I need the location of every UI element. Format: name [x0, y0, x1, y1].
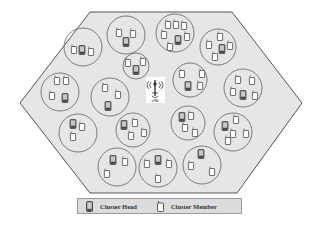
legend-cluster-member-label: Cluster Member — [171, 203, 217, 210]
cluster-head-icon — [62, 94, 68, 103]
cluster-head-icon — [185, 82, 191, 91]
cluster-head-icon — [175, 36, 181, 45]
cluster-head-icon — [155, 156, 161, 165]
enb-label: eNB — [152, 99, 160, 103]
legend-cluster-head-label: Cluster Head — [100, 203, 137, 210]
cluster-head-icon — [219, 45, 225, 54]
cluster-head-icon — [179, 113, 185, 122]
enb-base-station: eNB — [146, 77, 165, 103]
cluster-head-icon — [110, 156, 116, 165]
cluster-head-icon — [133, 66, 139, 75]
cluster-head-icon — [123, 38, 129, 47]
cluster-head-icon — [198, 150, 204, 159]
cluster-head-icon — [121, 121, 127, 130]
cluster-member-icon — [157, 201, 164, 212]
cluster-head-icon — [240, 91, 246, 100]
cluster-head-icon — [105, 102, 111, 111]
cluster-head-icon — [222, 122, 228, 131]
cell-diagram: eNB — [0, 0, 321, 226]
cluster-head-icon — [79, 46, 85, 55]
legend: Cluster Head Cluster Member — [77, 198, 242, 214]
cluster-head-icon — [86, 201, 93, 212]
legend-item-cluster-member: Cluster Member — [157, 201, 217, 212]
cluster-head-icon — [70, 120, 76, 129]
legend-item-cluster-head: Cluster Head — [86, 201, 137, 212]
